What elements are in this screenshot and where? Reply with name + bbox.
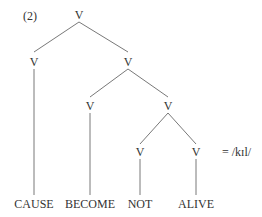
node-left: V — [30, 56, 39, 68]
leaf-cause: CAUSE — [14, 198, 53, 210]
node-right-left: V — [86, 100, 95, 112]
leaf-not: NOT — [128, 198, 153, 210]
syntax-tree-figure: (2) V V V V V V V = /kɪl/ CAUSE BECOME N… — [0, 0, 262, 217]
node-right-right: V — [164, 100, 173, 112]
tree-branches — [0, 0, 262, 217]
gloss: = /kɪl/ — [222, 146, 251, 158]
leaf-alive: ALIVE — [178, 198, 214, 210]
node-root: V — [75, 9, 84, 21]
leaf-become: BECOME — [65, 198, 115, 210]
node-rr-left: V — [136, 146, 145, 158]
example-number: (2) — [23, 10, 37, 22]
node-rr-right: V — [192, 146, 201, 158]
node-right: V — [124, 56, 133, 68]
